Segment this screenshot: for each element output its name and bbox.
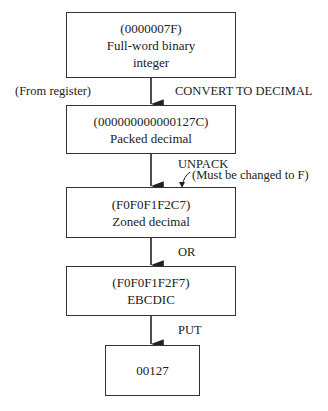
label-put: PUT	[178, 323, 202, 338]
box-code: (0000007F)	[120, 20, 181, 37]
box-binary-integer: (0000007F) Full-word binary integer	[66, 12, 236, 78]
label-or: OR	[178, 245, 195, 260]
box-output: 00127	[105, 345, 200, 396]
box-zoned-decimal: (F0F0F1F2C7) Zoned decimal	[66, 187, 236, 238]
box-packed-decimal: (000000000000127C) Packed decimal	[66, 105, 236, 154]
box-ebcdic: (F0F0F1F2F7) EBCDIC	[66, 266, 236, 316]
label-from-register: (From register)	[15, 84, 91, 99]
label-note: (Must be changed to F)	[192, 168, 309, 183]
label-convert-to-decimal: CONVERT TO DECIMAL	[175, 84, 312, 99]
